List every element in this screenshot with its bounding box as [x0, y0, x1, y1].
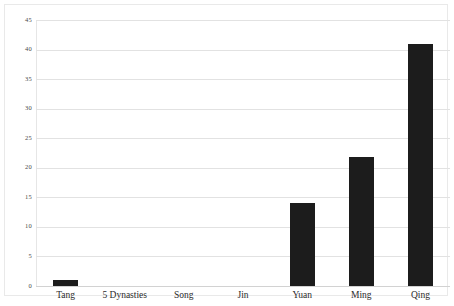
- gridline: [36, 138, 450, 139]
- y-axis-tick-label: 30: [10, 105, 32, 112]
- x-axis-tick-label: 5 Dynasties: [102, 288, 147, 302]
- bar: [349, 157, 374, 286]
- gridline: [36, 197, 450, 198]
- y-axis-tick-label: 5: [10, 253, 32, 260]
- gridline: [36, 227, 450, 228]
- gridline: [36, 79, 450, 80]
- gridline: [36, 286, 450, 287]
- y-axis-tick-label: 35: [10, 76, 32, 83]
- x-axis-tick-label: Yuan: [292, 288, 312, 302]
- chart-screenshot: 051015202530354045 Tang5 DynastiesSongJi…: [0, 0, 454, 306]
- gridline: [36, 50, 450, 51]
- x-axis-tick-labels: Tang5 DynastiesSongJinYuanMingQing: [36, 288, 450, 306]
- x-axis-tick-label: Ming: [351, 288, 372, 302]
- y-axis-tick-labels: 051015202530354045: [10, 20, 32, 286]
- x-axis-tick-label: Qing: [411, 288, 430, 302]
- plot-area: [36, 20, 450, 286]
- gridline: [36, 256, 450, 257]
- y-axis-tick-label: 10: [10, 223, 32, 230]
- gridline: [36, 20, 450, 21]
- x-axis-tick-label: Song: [174, 288, 194, 302]
- bar: [408, 44, 433, 286]
- chart-frame: 051015202530354045 Tang5 DynastiesSongJi…: [4, 4, 448, 296]
- y-axis-tick-label: 0: [10, 283, 32, 290]
- x-axis-tick-label: Jin: [237, 288, 248, 302]
- x-axis-tick-label: Tang: [56, 288, 75, 302]
- y-axis-tick-label: 25: [10, 135, 32, 142]
- y-axis-tick-label: 20: [10, 164, 32, 171]
- gridline: [36, 168, 450, 169]
- y-axis-tick-label: 15: [10, 194, 32, 201]
- y-axis-tick-label: 45: [10, 17, 32, 24]
- y-axis-tick-label: 40: [10, 46, 32, 53]
- gridline: [36, 109, 450, 110]
- bar: [53, 280, 78, 286]
- bar: [290, 203, 315, 286]
